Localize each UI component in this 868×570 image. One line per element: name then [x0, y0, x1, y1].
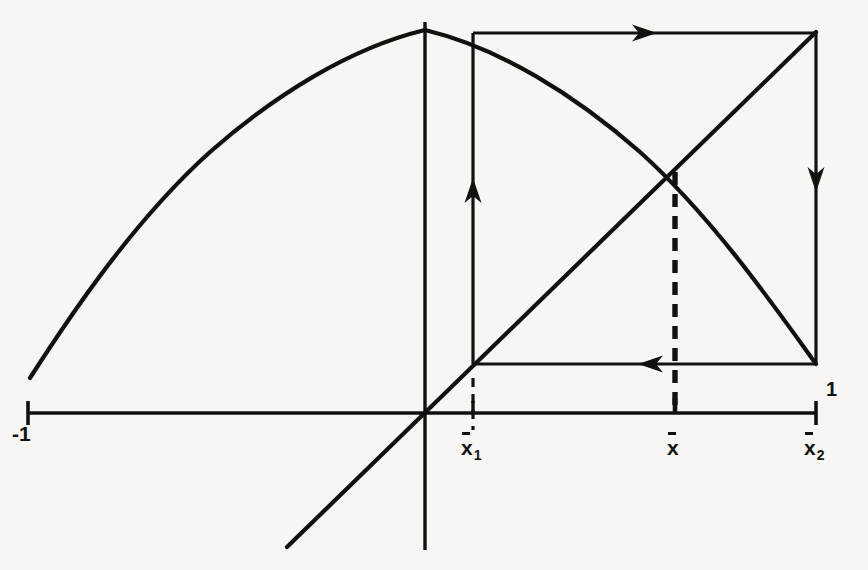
tick-label-minus-one-text: -1: [12, 422, 31, 445]
tick-label-xbar-base: x: [667, 437, 679, 458]
cobweb-diagram-figure: -1 x1 x x2 1: [0, 0, 868, 570]
tick-label-x1: x1: [461, 437, 481, 462]
y-equals-x-line: [287, 32, 816, 547]
axes-group: [28, 22, 816, 550]
tick-label-x2-base: x: [804, 437, 816, 458]
value-label-one: 1: [826, 379, 837, 399]
tick-label-x2: x2: [804, 437, 824, 462]
dashed-lines-group: [473, 172, 675, 430]
tick-label-xbar: x: [667, 437, 679, 458]
tick-label-minus-one: -1: [12, 423, 31, 444]
tick-label-x2-subscript: 2: [817, 447, 825, 463]
value-label-one-text: 1: [826, 378, 837, 400]
tick-label-x1-subscript: 1: [474, 447, 482, 463]
tick-label-x1-base: x: [461, 437, 473, 458]
identity-line-group: [287, 32, 816, 547]
map-curve-group: [30, 30, 816, 378]
parabola-map-curve: [30, 30, 816, 378]
figure-canvas: [0, 0, 868, 570]
